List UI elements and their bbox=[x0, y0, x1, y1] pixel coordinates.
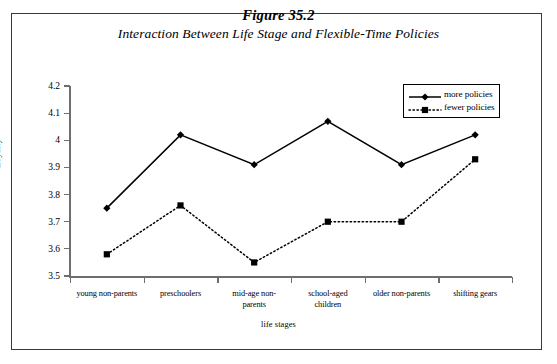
x-axis-tick-label: preschoolers bbox=[144, 288, 218, 299]
series-more-policies bbox=[103, 118, 479, 212]
y-axis-tick-label: 3.5 bbox=[32, 271, 60, 281]
figure-subtitle: Interaction Between Life Stage and Flexi… bbox=[0, 24, 557, 43]
x-axis-tick-label: older non-parents bbox=[365, 288, 439, 299]
x-axis-tick bbox=[438, 277, 439, 283]
data-point-marker-diamond bbox=[251, 161, 258, 168]
x-axis-tick-label: school-agedchildren bbox=[291, 288, 365, 310]
y-axis-tick-label: 3.6 bbox=[32, 244, 60, 254]
x-axis-tick bbox=[291, 277, 292, 283]
legend-label: more policies bbox=[442, 89, 492, 100]
x-axis-tick bbox=[144, 277, 145, 283]
series-fewer-policies bbox=[104, 156, 479, 265]
data-point-marker-square bbox=[251, 259, 257, 265]
x-axis-tick-label-line: shifting gears bbox=[438, 288, 512, 299]
y-axis-tick-label: 3.8 bbox=[32, 190, 60, 200]
data-point-marker-square bbox=[104, 251, 110, 257]
y-axis-tick-labels: 4.24.143.93.83.73.63.5 bbox=[28, 0, 60, 300]
series-line bbox=[107, 121, 475, 208]
x-axis-tick-label-line: mid-age non- bbox=[217, 288, 291, 299]
data-point-marker-square bbox=[398, 219, 404, 225]
y-axis-tick-label: 4.1 bbox=[32, 108, 60, 118]
x-axis-tick bbox=[70, 277, 71, 283]
x-axis-tick-label-line: young non-parents bbox=[70, 288, 144, 299]
x-axis-tick-label-line: school-aged bbox=[291, 288, 365, 299]
figure-number: Figure 35.2 bbox=[0, 6, 557, 24]
x-axis-tick-label: mid-age non-parents bbox=[217, 288, 291, 310]
legend-item: more policies bbox=[408, 88, 494, 101]
data-point-marker-square bbox=[177, 202, 183, 208]
data-point-marker-diamond bbox=[324, 118, 331, 125]
data-point-marker-square bbox=[325, 219, 331, 225]
x-axis-tick-label-line: parents bbox=[217, 299, 291, 310]
data-point-marker-square bbox=[472, 156, 478, 162]
series-line bbox=[107, 159, 475, 262]
x-axis-title: life stages bbox=[0, 320, 557, 329]
data-point-marker-diamond bbox=[472, 131, 479, 138]
legend-symbol-fewer-policies-icon bbox=[408, 102, 442, 114]
data-point-marker-square bbox=[422, 106, 428, 112]
legend-label: fewer policies bbox=[442, 102, 494, 113]
x-axis-tick-label-line: older non-parents bbox=[365, 288, 439, 299]
x-axis-tick-label-line: preschoolers bbox=[144, 288, 218, 299]
legend-symbol-more-policies-icon bbox=[408, 89, 442, 101]
x-axis-tick-label: shifting gears bbox=[438, 288, 512, 299]
y-axis-tick-label: 3.7 bbox=[32, 217, 60, 227]
y-axis-tick-label: 3.9 bbox=[32, 162, 60, 172]
legend-item: fewer policies bbox=[408, 101, 494, 114]
y-axis-tick-label: 4.2 bbox=[32, 81, 60, 91]
x-axis-tick bbox=[217, 277, 218, 283]
x-axis-tick bbox=[512, 277, 513, 283]
x-axis-tick-label-line: children bbox=[291, 299, 365, 310]
x-axis-tick-label: young non-parents bbox=[70, 288, 144, 299]
data-point-marker-diamond bbox=[421, 93, 428, 100]
figure-title-block: Figure 35.2 Interaction Between Life Sta… bbox=[0, 6, 557, 43]
x-axis-tick bbox=[365, 277, 366, 283]
x-axis-tick-labels: young non-parentspreschoolersmid-age non… bbox=[70, 288, 512, 322]
data-point-marker-diamond bbox=[398, 161, 405, 168]
y-axis-tick-label: 4 bbox=[32, 135, 60, 145]
y-axis-title: Loyalty bbox=[0, 139, 2, 168]
chart-legend: more policiesfewer policies bbox=[403, 84, 500, 118]
